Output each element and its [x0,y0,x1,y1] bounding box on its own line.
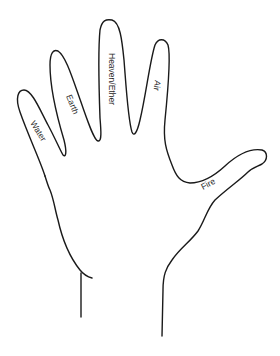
left-wrist-outline [45,176,92,278]
hand-diagram: Water Earth Heaven/Ether Air Fire [0,0,280,356]
label-heaven-ether: Heaven/Ether [107,53,117,105]
hand-outline [17,20,266,336]
label-fire: Fire [199,176,217,192]
label-air: Air [152,80,163,92]
